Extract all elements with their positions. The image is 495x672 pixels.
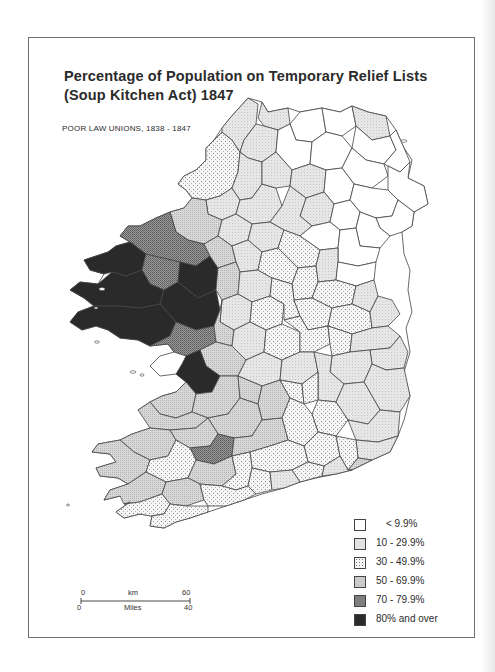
union-regions [70, 98, 428, 528]
legend-item-10-29: 10 - 29.9% [354, 537, 366, 551]
legend-swatch [354, 614, 366, 626]
legend-item-lt10: < 9.9% [354, 518, 366, 532]
union-clifden [70, 304, 176, 346]
legend-label: 10 - 29.9% [376, 537, 424, 548]
legend-item-30-49: 30 - 49.9% [354, 556, 366, 570]
scale-bar: 0 km 60 0 Miles 40 [80, 588, 190, 618]
legend-label: 30 - 49.9% [376, 556, 424, 567]
legend-swatch [354, 538, 366, 550]
union-cork [200, 484, 256, 506]
scale-miles-end: 40 [184, 603, 192, 612]
legend-item-70-79: 70 - 79.9% [354, 594, 366, 608]
scale-km-end: 60 [182, 588, 190, 597]
legend-label: 80% and over [376, 613, 438, 624]
legend-swatch [354, 576, 366, 588]
legend-label: 70 - 79.9% [376, 594, 424, 605]
union-belmullet [84, 242, 146, 276]
legend-item-80-plus: 80% and over [354, 613, 366, 627]
legend-item-50-69: 50 - 69.9% [354, 575, 366, 589]
union-castleblayney [316, 248, 338, 282]
scale-miles-start: 0 [77, 603, 81, 612]
scale-miles-label: Miles [124, 603, 142, 612]
scale-km-start: 0 [81, 588, 85, 597]
legend-swatch [354, 557, 366, 569]
legend-swatch [354, 519, 366, 531]
legend-label: < 9.9% [386, 518, 417, 529]
legend-swatch [354, 595, 366, 607]
ireland-map [0, 0, 495, 672]
legend-label: 50 - 69.9% [376, 575, 424, 586]
scale-km-label: km [128, 588, 138, 597]
